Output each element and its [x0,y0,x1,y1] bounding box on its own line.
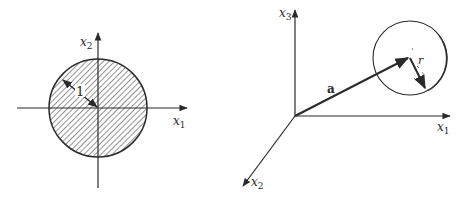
x1-axis-label: x1 [173,114,186,130]
x2-axis-label: x2 [251,175,264,191]
vector-a [295,58,408,116]
radius-label: 1 [76,84,84,99]
x2-axis-label: x2 [80,35,93,51]
sphere-figure: a r x3 x1 x2 [243,6,450,191]
x3-axis-label: x3 [279,6,292,22]
diagram-canvas: 1 x2 x1 a r x3 x1 x2 [0,0,467,198]
vector-a-label: a [327,82,335,96]
unit-disk-figure: 1 x2 x1 [17,33,187,188]
radius-label: r [418,54,424,67]
x1-axis-label: x1 [437,120,450,136]
